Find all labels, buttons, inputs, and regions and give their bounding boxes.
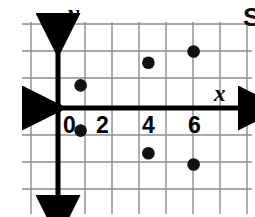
data-point[interactable]	[142, 147, 155, 160]
origin-marker	[54, 104, 63, 113]
x-axis-label: x	[213, 81, 226, 106]
data-point[interactable]	[187, 158, 200, 171]
tick-label-x-4: 4	[142, 112, 155, 138]
data-point[interactable]	[74, 79, 87, 92]
tick-label-origin: 0	[63, 112, 76, 138]
graph-canvas: y x 0 2 4 6 S	[0, 0, 255, 217]
data-point[interactable]	[142, 57, 155, 70]
data-point[interactable]	[187, 45, 200, 58]
cropped-edge-text: S	[243, 4, 255, 30]
coordinate-plane-figure: y x 0 2 4 6	[0, 0, 255, 217]
tick-label-x-2: 2	[96, 112, 109, 138]
y-axis-label: y	[65, 0, 80, 27]
data-point[interactable]	[74, 124, 87, 137]
tick-label-x-6: 6	[188, 112, 201, 138]
